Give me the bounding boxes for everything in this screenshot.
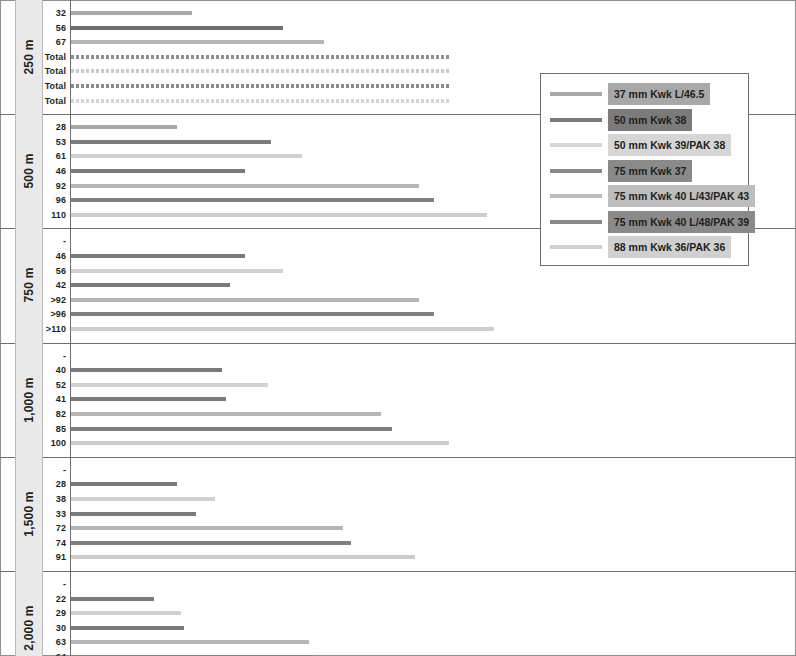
row-value-label: 22 bbox=[38, 592, 66, 606]
row-label-wrapper: 56 bbox=[40, 21, 66, 35]
row-value-label: 63 bbox=[38, 635, 66, 649]
row-label-wrapper: 30 bbox=[40, 621, 66, 635]
row-label-wrapper: 40 bbox=[40, 363, 66, 377]
legend-item[interactable]: 75 mm Kwk 40 L/43/PAK 43 bbox=[550, 185, 742, 207]
chart-row: 32 bbox=[0, 6, 796, 20]
bar bbox=[71, 541, 351, 545]
chart-row: 38 bbox=[0, 492, 796, 506]
row-value-label: 67 bbox=[38, 35, 66, 49]
row-value-label: 41 bbox=[38, 392, 66, 406]
row-value-label: - bbox=[38, 234, 66, 248]
row-value-label: Total bbox=[38, 79, 66, 93]
row-value-label: 61 bbox=[38, 149, 66, 163]
row-value-label: 96 bbox=[38, 193, 66, 207]
row-label-wrapper: 74 bbox=[40, 536, 66, 550]
bar bbox=[71, 69, 449, 73]
legend-item[interactable]: 75 mm Kwk 40 L/48/PAK 39 bbox=[550, 211, 742, 233]
chart-row: 56 bbox=[0, 21, 796, 35]
row-value-label: 74 bbox=[38, 536, 66, 550]
row-label-wrapper: - bbox=[40, 349, 66, 363]
row-label-wrapper: 46 bbox=[40, 249, 66, 263]
bar bbox=[71, 298, 419, 302]
legend-label: 50 mm Kwk 39/PAK 38 bbox=[608, 134, 731, 156]
row-label-wrapper: 100 bbox=[40, 436, 66, 450]
bar bbox=[71, 269, 283, 273]
bar bbox=[71, 125, 177, 129]
legend-item[interactable]: 50 mm Kwk 38 bbox=[550, 109, 742, 131]
row-label-wrapper: Total bbox=[40, 79, 66, 93]
bar bbox=[71, 40, 324, 44]
legend-item[interactable]: 37 mm Kwk L/46.5 bbox=[550, 83, 742, 105]
row-label-wrapper: 42 bbox=[40, 278, 66, 292]
chart-row: 85 bbox=[0, 422, 796, 436]
row-label-wrapper: 28 bbox=[40, 477, 66, 491]
row-value-label: 85 bbox=[38, 422, 66, 436]
row-value-label: 110 bbox=[38, 208, 66, 222]
row-label-wrapper: 61 bbox=[40, 149, 66, 163]
chart-row: 91 bbox=[0, 550, 796, 564]
bar bbox=[71, 526, 343, 530]
section-divider bbox=[0, 457, 796, 458]
chart-row: >96 bbox=[0, 307, 796, 321]
row-label-wrapper: 56 bbox=[40, 264, 66, 278]
row-value-label: >96 bbox=[38, 307, 66, 321]
bar bbox=[71, 84, 449, 88]
legend-swatch bbox=[550, 169, 602, 173]
row-value-label: 56 bbox=[38, 264, 66, 278]
bar bbox=[71, 11, 192, 15]
row-value-label: 46 bbox=[38, 164, 66, 178]
row-label-wrapper: 85 bbox=[40, 422, 66, 436]
bar bbox=[71, 26, 283, 30]
bar bbox=[71, 626, 184, 630]
row-value-label: Total bbox=[38, 50, 66, 64]
row-label-wrapper: 96 bbox=[40, 193, 66, 207]
chart-page: 250 m325667TotalTotalTotalTotal500 m2853… bbox=[0, 0, 796, 656]
bar bbox=[71, 140, 271, 144]
row-value-label: - bbox=[38, 577, 66, 591]
row-label-wrapper: >110 bbox=[40, 322, 66, 336]
row-value-label: 30 bbox=[38, 621, 66, 635]
row-label-wrapper: >96 bbox=[40, 307, 66, 321]
chart-row: - bbox=[0, 349, 796, 363]
legend-swatch bbox=[550, 92, 602, 96]
row-label-wrapper: 53 bbox=[40, 135, 66, 149]
row-label-wrapper: 63 bbox=[40, 635, 66, 649]
row-label-wrapper: - bbox=[40, 463, 66, 477]
bar bbox=[71, 383, 268, 387]
legend-item[interactable]: 88 mm Kwk 36/PAK 36 bbox=[550, 236, 742, 258]
row-value-label: 32 bbox=[38, 6, 66, 20]
bar bbox=[71, 184, 419, 188]
chart-row: 63 bbox=[0, 635, 796, 649]
row-label-wrapper: 32 bbox=[40, 6, 66, 20]
row-label-wrapper: 28 bbox=[40, 120, 66, 134]
bar bbox=[71, 512, 196, 516]
section-divider bbox=[0, 571, 796, 572]
legend-label: 88 mm Kwk 36/PAK 36 bbox=[608, 236, 731, 258]
chart-row: 28 bbox=[0, 477, 796, 491]
bar bbox=[71, 412, 381, 416]
chart-row: >110 bbox=[0, 322, 796, 336]
row-label-wrapper: >92 bbox=[40, 293, 66, 307]
row-value-label: 42 bbox=[38, 278, 66, 292]
row-value-label: 91 bbox=[38, 550, 66, 564]
row-label-wrapper: Total bbox=[40, 64, 66, 78]
legend-label: 37 mm Kwk L/46.5 bbox=[608, 83, 710, 105]
legend-item[interactable]: 50 mm Kwk 39/PAK 38 bbox=[550, 134, 742, 156]
bar bbox=[71, 427, 392, 431]
bar bbox=[71, 611, 181, 615]
row-label-wrapper: 110 bbox=[40, 208, 66, 222]
chart-row: 72 bbox=[0, 521, 796, 535]
bar bbox=[71, 154, 302, 158]
chart-row: 41 bbox=[0, 392, 796, 406]
chart-row: - bbox=[0, 463, 796, 477]
bar bbox=[71, 283, 230, 287]
legend-item[interactable]: 75 mm Kwk 37 bbox=[550, 160, 742, 182]
row-label-wrapper: 38 bbox=[40, 492, 66, 506]
bar bbox=[71, 482, 177, 486]
row-label-wrapper: 52 bbox=[40, 378, 66, 392]
row-label-wrapper: 67 bbox=[40, 35, 66, 49]
bar bbox=[71, 497, 215, 501]
bar bbox=[71, 99, 449, 103]
row-value-label: 53 bbox=[38, 135, 66, 149]
legend-swatch bbox=[550, 245, 602, 249]
